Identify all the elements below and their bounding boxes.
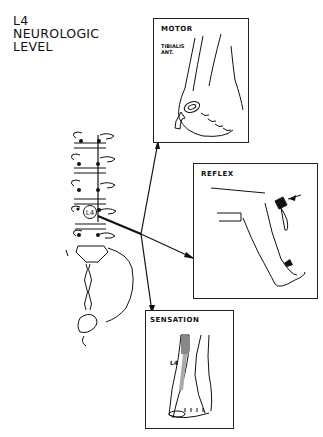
vertebra-l3 — [71, 180, 115, 204]
reflex-panel: REFLEX — [193, 163, 318, 299]
foot-dorsiflexion-illustration — [153, 18, 249, 143]
patellar-reflex-illustration — [193, 163, 318, 299]
l4-circle-label: L4 — [86, 209, 95, 217]
arrow-to-motor — [141, 142, 158, 234]
nerve-root-line — [98, 216, 141, 234]
motor-panel: MOTOR TIBIALIS ANT. — [153, 18, 249, 143]
sensation-panel: SENSATION L4 — [145, 310, 234, 429]
foot-dermatome-illustration — [145, 310, 234, 429]
arrow-to-sensation — [141, 234, 152, 312]
sensation-dermatome-label: L4 — [170, 360, 178, 366]
